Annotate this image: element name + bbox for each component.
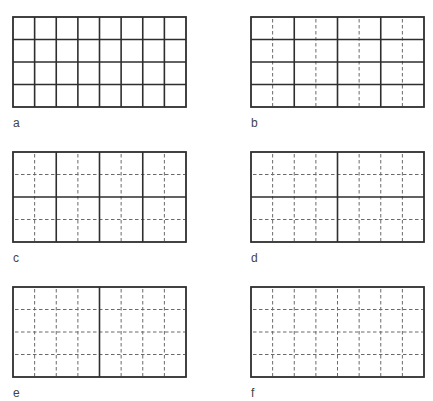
grid-c-drawing bbox=[13, 152, 188, 244]
grid-panel-e: e bbox=[13, 287, 186, 399]
panel-label-b: b bbox=[251, 117, 258, 129]
grid-panel-b: b bbox=[251, 17, 424, 129]
panel-label-a: a bbox=[13, 117, 20, 129]
panel-label-e: e bbox=[13, 387, 20, 399]
grid-panel-c: c bbox=[13, 152, 186, 264]
grid-panel-d: d bbox=[251, 152, 424, 264]
grid-panel-a: a bbox=[13, 17, 186, 129]
grid-panel-f: f bbox=[251, 287, 424, 399]
grid-d-drawing bbox=[251, 152, 426, 244]
grid-f-drawing bbox=[251, 287, 426, 379]
grid-b-drawing bbox=[251, 17, 426, 109]
panel-label-c: c bbox=[13, 252, 19, 264]
panel-label-f: f bbox=[251, 387, 254, 399]
panel-label-d: d bbox=[251, 252, 258, 264]
grid-e-drawing bbox=[13, 287, 188, 379]
grid-a-drawing bbox=[13, 17, 188, 109]
